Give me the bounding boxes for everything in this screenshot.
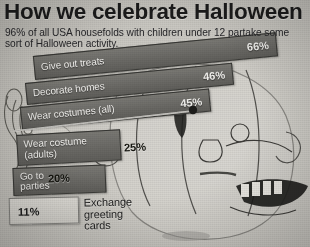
infographic-page: How we celebrate Halloween 96% of all US…: [0, 0, 310, 247]
page-title: How we celebrate Halloween: [0, 0, 310, 24]
header: How we celebrate Halloween 96% of all US…: [0, 0, 310, 50]
page-subtitle: 96% of all USA housefolds with children …: [0, 24, 310, 50]
